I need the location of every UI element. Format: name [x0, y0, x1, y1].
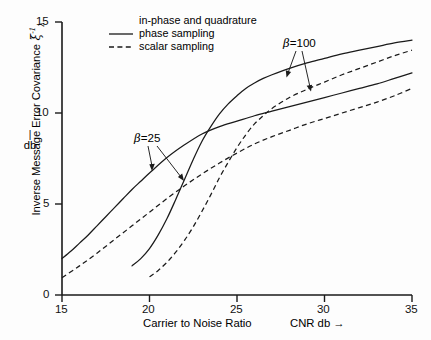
beta-symbol-100: β: [283, 36, 290, 50]
y-axis-sup: -1: [28, 27, 37, 34]
series-line-3: [62, 88, 412, 277]
series-line-2: [62, 73, 412, 259]
x-axis-title: Carrier to Noise Ratio: [143, 317, 252, 329]
y-axis-title: Inverse Message Error Covariance ξ-1λ: [28, 4, 45, 234]
legend-item-phase-sampling: phase sampling: [108, 27, 257, 40]
series-group: [62, 40, 412, 278]
x-axis-unit: CNR db →: [290, 317, 345, 329]
y-axis-unit: | db: [20, 131, 40, 151]
y-axis-unit-label: db: [24, 139, 37, 151]
x-tick-label-35: 35: [405, 303, 417, 315]
legend-title-text: in-phase and quadrature: [139, 14, 257, 27]
legend-title: in-phase and quadrature: [108, 14, 257, 27]
series-line-0: [132, 40, 412, 266]
beta-symbol-25: β: [134, 131, 141, 145]
series-line-1: [150, 50, 413, 277]
legend-dashed-line-icon: [108, 42, 134, 52]
x-tick-label-15: 15: [55, 303, 67, 315]
annotation-beta25-leaders: [148, 146, 184, 181]
annotation-beta-25: β=25: [134, 131, 160, 145]
beta-value-25: =25: [141, 131, 161, 144]
legend-label-phase-sampling: phase sampling: [139, 27, 215, 40]
y-axis-title-text: Inverse Message Error Covariance: [30, 44, 42, 215]
legend-label-scalar-sampling: scalar sampling: [139, 40, 214, 53]
y-tick-label-0: 0: [43, 288, 49, 300]
x-tick-label-30: 30: [317, 303, 329, 315]
x-tick-label-25: 25: [230, 303, 242, 315]
y-axis-symbol: ξ-1λ: [29, 22, 43, 44]
chart-legend: in-phase and quadrature phase sampling s…: [108, 14, 257, 53]
y-axis-sub: λ: [37, 22, 46, 27]
beta-value-100: =100: [290, 36, 316, 49]
x-tick-label-20: 20: [142, 303, 154, 315]
annotation-beta-100: β=100: [283, 36, 316, 50]
legend-solid-line-icon: [108, 29, 134, 39]
figure-container: 15 10 5 0 15 20 25 30 35 Inverse Message…: [0, 0, 431, 340]
annotation-beta100-leaders: [286, 51, 312, 92]
legend-item-scalar-sampling: scalar sampling: [108, 40, 257, 53]
